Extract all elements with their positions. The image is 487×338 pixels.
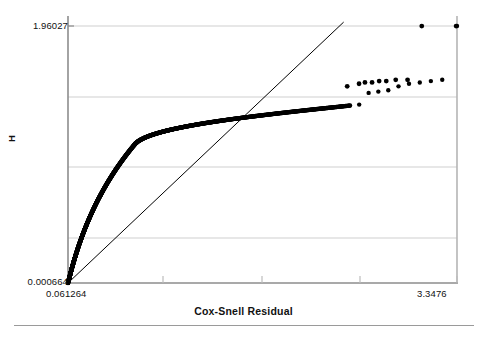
y-axis-title: H (6, 135, 17, 142)
data-point-series (66, 24, 459, 286)
cox-snell-residual-plot: 1.96027 0.000664 0.061264 3.3476 Cox-Sne… (0, 0, 487, 338)
axis-lines (68, 16, 458, 283)
y-axis-tick-label-bottom: 0.000664 (28, 276, 68, 287)
gridlines (68, 26, 457, 238)
y-axis-tick-label-top: 1.96027 (33, 20, 68, 31)
reference-line (68, 22, 344, 283)
x-axis-title: Cox-Snell Residual (0, 305, 487, 317)
x-axis-tick-label-left: 0.061264 (46, 288, 86, 299)
footer-divider (14, 325, 474, 326)
x-axis-tick-label-right: 3.3476 (417, 288, 447, 299)
